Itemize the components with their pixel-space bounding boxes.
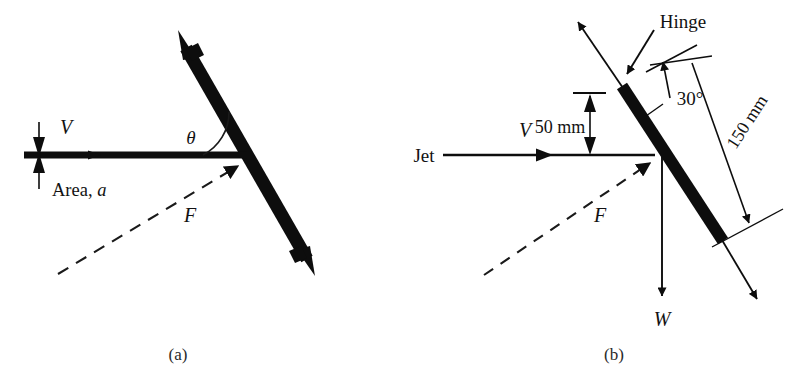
figure-root: V Area, a θ F (a) 50 mm (0, 0, 809, 381)
panel-b-caption: (b) (604, 345, 624, 364)
plate-axis-lower-b (722, 240, 757, 299)
angle-reference-line-b (646, 45, 697, 72)
plate-axis-upper-b (578, 22, 623, 88)
panel-a-caption: (a) (169, 345, 188, 364)
angle-label-b: 30° (677, 88, 704, 109)
angle-arrow-b (663, 62, 670, 98)
length-dim-extension-bottom-b (712, 209, 783, 247)
offset-dim-arrow-up-b (584, 94, 596, 112)
angle-label-a: θ (186, 127, 195, 148)
area-label-a: Area, a (52, 180, 106, 200)
force-label-b: F (593, 204, 607, 226)
force-dashed-line-b (484, 163, 650, 275)
angle-label-leader-b (646, 104, 663, 116)
offset-dim-arrow-down-b (584, 137, 596, 155)
hinge-leader-line-b (627, 30, 654, 74)
offset-dimension-label-b: 50 mm (535, 117, 586, 137)
panel-b: 50 mm Hinge 30° 150 mm F (413, 11, 783, 364)
length-dim-extension-top-b (650, 56, 712, 65)
weight-label-b: W (654, 308, 673, 330)
velocity-label-b: V (519, 119, 534, 141)
plate-length-label-b: 150 mm (722, 91, 771, 152)
panel-a: V Area, a θ F (a) (24, 30, 315, 364)
technical-diagram: V Area, a θ F (a) 50 mm (0, 0, 809, 381)
hinge-label-b: Hinge (660, 11, 706, 32)
offset-dimension-b: 50 mm (535, 93, 606, 155)
area-label-a-symbol: a (97, 180, 106, 200)
velocity-label-a: V (60, 116, 75, 138)
area-label-a-text: Area, (52, 180, 97, 200)
jet-flow-arrowhead-b (536, 149, 553, 162)
force-label-a: F (183, 204, 197, 226)
jet-label-b: Jet (413, 145, 435, 166)
